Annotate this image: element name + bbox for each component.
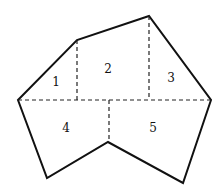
region-label-5: 5: [149, 121, 157, 135]
partitioned-polygon-diagram: 1 2 3 4 5: [0, 0, 224, 195]
region-label-2: 2: [104, 62, 112, 76]
region-label-1: 1: [52, 75, 60, 89]
region-label-3: 3: [167, 71, 175, 85]
region-label-4: 4: [62, 121, 70, 135]
